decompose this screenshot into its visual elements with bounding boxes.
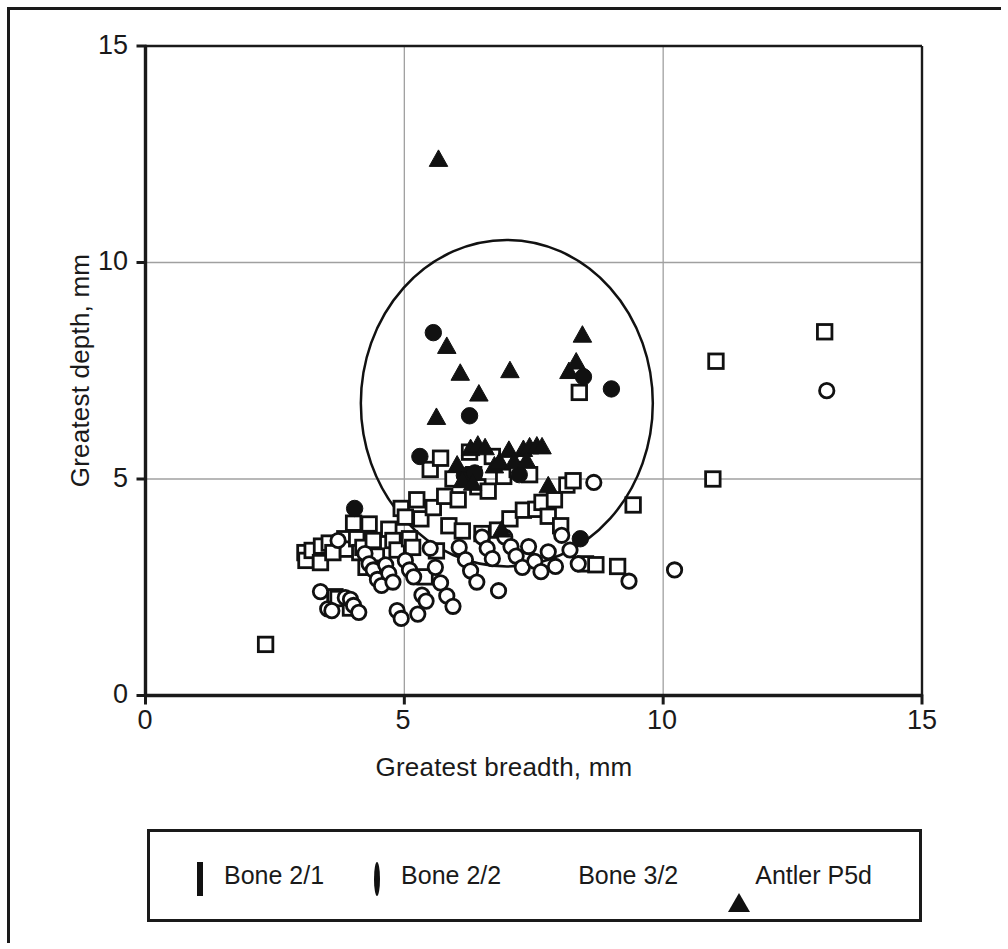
data-point-open-square [566, 473, 581, 488]
legend-item-bone-2-2[interactable]: Bone 2/2 [374, 861, 501, 890]
y-tick-label-0: 0 [78, 681, 128, 708]
data-point-open-circle [325, 603, 339, 617]
data-point-filled-circle [572, 531, 588, 547]
legend-item-bone-3-2[interactable]: Bone 3/2 [551, 861, 678, 890]
legend-label-bone-2-2: Bone 2/2 [401, 861, 501, 890]
data-point-open-square [817, 325, 832, 340]
data-point-open-circle [352, 605, 366, 619]
data-point-open-square [346, 516, 361, 531]
x-tick-label-10: 10 [637, 707, 687, 734]
data-point-open-square [362, 517, 377, 532]
data-point-open-circle [622, 574, 636, 588]
data-point-filled-triangle [429, 150, 448, 167]
legend-item-antler-p5d[interactable]: Antler P5d [728, 861, 872, 890]
x-axis-title: Greatest breadth, mm [0, 752, 1008, 783]
data-point-open-circle [491, 584, 505, 598]
filled-circle-icon [551, 865, 573, 887]
data-point-open-square [626, 498, 641, 512]
data-point-open-circle [446, 599, 460, 613]
y-tick-label-15: 15 [78, 32, 128, 59]
data-point-open-square [451, 493, 466, 508]
data-point-open-square [589, 557, 604, 572]
data-point-open-circle [331, 533, 345, 547]
data-point-filled-circle [412, 448, 428, 464]
filled-triangle-icon [728, 865, 750, 887]
x-tick-label-15: 15 [897, 707, 947, 734]
legend-item-bone-2-1[interactable]: Bone 2/1 [197, 861, 324, 890]
legend-label-antler-p5d: Antler P5d [755, 861, 872, 890]
data-point-open-circle [571, 557, 585, 571]
data-point-open-circle [419, 594, 433, 608]
data-point-open-circle [541, 545, 555, 559]
data-point-filled-circle [603, 381, 619, 397]
data-point-open-square [398, 510, 413, 525]
data-point-open-circle [521, 539, 535, 553]
data-point-filled-triangle [438, 337, 457, 354]
data-point-open-square [610, 559, 625, 574]
data-point-filled-triangle [501, 361, 519, 378]
data-point-open-circle [423, 541, 437, 555]
data-point-filled-circle [425, 324, 441, 340]
data-point-open-circle [555, 528, 569, 542]
data-point-open-circle [820, 383, 834, 397]
data-point-open-circle [394, 611, 408, 625]
data-point-open-circle [667, 563, 681, 577]
data-point-open-circle [470, 575, 484, 589]
legend-label-bone-2-1: Bone 2/1 [224, 861, 324, 890]
data-point-filled-triangle [451, 364, 470, 381]
data-point-open-square [455, 524, 470, 539]
data-point-filled-circle [346, 500, 362, 516]
scatter-plot-svg [0, 0, 1008, 800]
data-point-open-circle [406, 570, 420, 584]
open-circle-icon [374, 865, 396, 887]
data-point-open-square [706, 472, 721, 487]
axes-lines [137, 46, 923, 705]
data-point-filled-triangle [567, 353, 586, 370]
data-point-open-circle [386, 575, 400, 589]
data-point-filled-circle [461, 408, 477, 424]
chart-plot-area: 15 10 5 0 0 5 10 15 [0, 0, 1008, 800]
gridlines [146, 46, 923, 696]
data-point-open-square [547, 493, 562, 508]
data-point-open-circle [313, 584, 327, 598]
data-point-open-square [410, 493, 425, 508]
data-point-filled-triangle [427, 408, 446, 425]
legend: Bone 2/1 Bone 2/2 Bone 3/2 Antler P5d [147, 829, 922, 922]
open-square-icon [197, 865, 219, 887]
x-tick-label-0: 0 [120, 707, 170, 734]
data-point-open-square [572, 385, 587, 400]
legend-label-bone-3-2: Bone 3/2 [578, 861, 678, 890]
data-point-open-circle [428, 560, 442, 574]
y-axis-title: Greatest depth, mm [65, 91, 96, 651]
data-point-open-square [481, 484, 496, 499]
x-tick-label-5: 5 [378, 707, 428, 734]
data-point-open-circle [587, 475, 601, 489]
data-point-filled-triangle [573, 326, 592, 343]
figure-root: 15 10 5 0 0 5 10 15 Greatest breadth, mm… [0, 0, 1008, 949]
data-point-open-circle [534, 564, 548, 578]
data-point-open-circle [485, 551, 499, 565]
data-point-open-square [709, 354, 724, 369]
data-point-open-circle [548, 559, 562, 573]
data-point-filled-triangle [470, 385, 489, 402]
data-point-open-square [433, 451, 448, 466]
data-point-open-square [258, 637, 273, 652]
